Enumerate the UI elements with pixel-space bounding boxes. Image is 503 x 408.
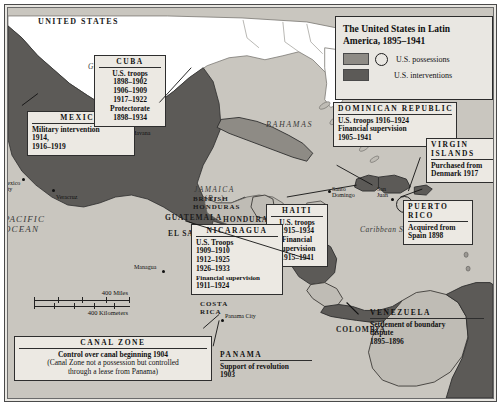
callout-cz-head: CANAL ZONE [19,338,207,349]
legend-title: The United States in Latin America, 1895… [343,23,486,48]
intervention-swatch-icon [343,69,369,81]
callout-cuba-head: CUBA [99,57,161,68]
callout-venezuela-head: VENEZUELA [370,308,484,319]
mexico-city-line2: City [7,186,20,192]
callout-vi-head-line2: ISLANDS [431,149,493,160]
map-figure: ATLANTIC OCEAN PACIFIC OCEAN Gulf of Mex… [0,0,503,408]
santo-domingo-dot [328,190,331,193]
callout-haiti-head: HAITI [271,206,323,217]
callout-vi-line2: Denmark 1917 [431,170,493,179]
callout-panama-line2: 1903 [220,371,312,380]
managua-dot [162,270,165,273]
united-states-label: UNITED STATES [38,18,119,26]
british-honduras-label: BRITISH HONDURAS [193,196,240,211]
san-juan-dot [391,198,394,201]
costa-rica-label: COSTA RICA [200,301,228,316]
callout-vi-head-line1: VIRGIN [431,140,493,149]
scale-km-ruler [34,303,130,309]
santo-domingo-line2: Domingo [332,192,355,198]
callout-pr-head-line2: RICO [408,211,468,222]
panama-city-dot [221,319,224,322]
legend-row-interventions: U.S. interventions [343,69,486,82]
map-outer-frame: ATLANTIC OCEAN PACIFIC OCEAN Gulf of Mex… [4,4,497,402]
legend-row-possessions: U.S. possessions [343,53,486,66]
callout-canal-zone: CANAL ZONE Control over canal beginning … [14,336,212,381]
callout-dr-head: DOMINICAN REPUBLIC [338,104,452,115]
guatemala-label: GUATEMALA [165,214,222,222]
bahamas-label: BAHAMAS [266,120,313,129]
callout-pr-line2: Spain 1898 [408,232,468,241]
possession-circle-icon [375,53,388,66]
scale-bar: 400 Miles 400 Kilometers [34,289,130,317]
callout-cuba-line6: 1898–1934 [99,114,161,123]
costa-rica-line2: RICA [200,309,228,317]
pacific-ocean-label: PACIFIC OCEAN [7,214,45,235]
callout-pr-head-line1: PUERTO [408,202,468,211]
legend-possessions-label: U.S. possessions [396,55,450,64]
callout-nicaragua-line6: 1911–1924 [196,282,278,291]
pacific-line2: OCEAN [7,224,45,234]
panama-city-label: Panama City [225,313,256,319]
callout-nicaragua-head: NICARAGUA [196,226,278,237]
pacific-line1: PACIFIC [7,214,45,224]
callout-cuba: CUBA U.S. troops 1898–1902 1906–1909 191… [94,55,166,127]
british-honduras-line2: HONDURAS [193,204,240,212]
mexico-city-label: Mexico City [7,180,20,193]
legend-panel: The United States in Latin America, 1895… [335,16,493,100]
san-juan-line2: Juan [377,192,388,198]
scale-miles-label: 400 Miles [34,289,130,297]
callout-panama: PANAMA Support of revolution 1903 [216,349,316,383]
managua-label: Managua [134,264,156,270]
callout-venezuela: VENEZUELA Settlement of boundary dispute… [366,307,488,350]
scale-km-label: 400 Kilometers [34,309,130,317]
callout-nicaragua-line4: 1926–1933 [196,265,278,274]
veracruz-dot [52,189,55,192]
callout-cz-line3: through a lease from Panama) [19,368,207,377]
costa-rica-landmass [307,283,343,307]
legend-interventions-label: U.S. interventions [394,71,452,80]
puerto-rico-landmass [414,185,432,195]
mexico-city-dot [22,178,25,181]
map-inner-frame: ATLANTIC OCEAN PACIFIC OCEAN Gulf of Mex… [7,7,494,399]
santo-domingo-label: Santo Domingo [332,186,355,199]
san-juan-label: San Juan [377,186,388,199]
callout-virgin-islands: VIRGIN ISLANDS Purchased from Denmark 19… [426,138,494,183]
possession-swatch-icon [343,53,369,65]
callout-nicaragua: NICARAGUA U.S. Troops 1909–1910 1912–192… [191,224,283,295]
callout-mexico-line3: 1916–1919 [32,143,130,152]
veracruz-label: Veracruz [56,194,77,200]
callout-panama-head: PANAMA [220,350,312,361]
callout-venezuela-line3: 1895–1896 [370,338,484,347]
callout-puerto-rico: PUERTO RICO Acquired from Spain 1898 [403,200,473,245]
